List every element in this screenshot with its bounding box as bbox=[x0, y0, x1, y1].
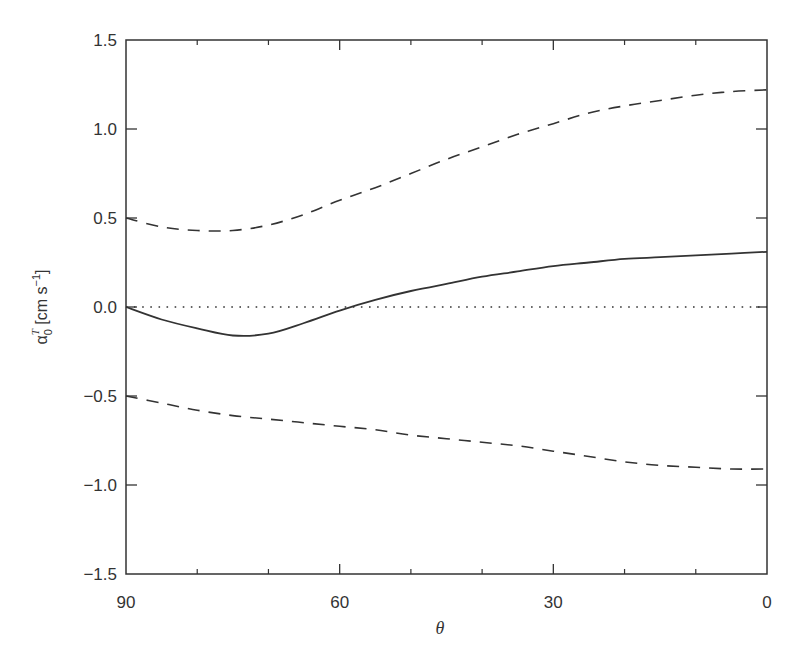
y-label-symbol: α bbox=[33, 335, 50, 344]
chart: 9060300 1.51.00.50.0−0.5−1.0−1.5 θ α0T [… bbox=[0, 0, 807, 658]
y-label-subscript: 0 bbox=[42, 329, 54, 335]
y-label-units-exponent: −1 bbox=[30, 274, 42, 287]
y-axis-label: α0T [cm s−1] bbox=[29, 269, 54, 344]
y-tick-label: −1.0 bbox=[83, 476, 117, 495]
series-lower-bound bbox=[126, 396, 767, 469]
y-label-units-close: ] bbox=[33, 269, 50, 273]
y-tick-label: −1.5 bbox=[83, 565, 117, 584]
plot-lines bbox=[126, 90, 767, 469]
axis-ticks bbox=[126, 40, 767, 574]
y-tick-label: −0.5 bbox=[83, 387, 117, 406]
x-tick-labels: 9060300 bbox=[117, 593, 772, 612]
plot-frame bbox=[126, 40, 767, 574]
y-tick-label: 0.0 bbox=[93, 298, 117, 317]
series-alpha-0-t bbox=[126, 252, 767, 336]
x-tick-label: 60 bbox=[330, 593, 349, 612]
x-axis-label: θ bbox=[436, 618, 445, 638]
y-tick-label: 0.5 bbox=[93, 209, 117, 228]
y-tick-label: 1.0 bbox=[93, 120, 117, 139]
y-tick-labels: 1.51.00.50.0−0.5−1.0−1.5 bbox=[83, 31, 117, 584]
x-tick-label: 0 bbox=[762, 593, 771, 612]
x-tick-label: 90 bbox=[117, 593, 136, 612]
series-upper-bound bbox=[126, 90, 767, 231]
y-label-units: [cm s bbox=[33, 286, 50, 329]
x-tick-label: 30 bbox=[544, 593, 563, 612]
y-tick-label: 1.5 bbox=[93, 31, 117, 50]
